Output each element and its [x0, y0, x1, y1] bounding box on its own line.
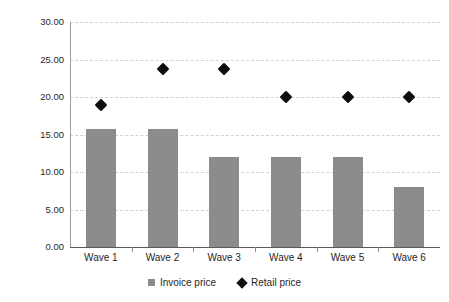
x-tick-label: Wave 4 [269, 252, 303, 263]
bar-invoice-price [86, 129, 116, 248]
y-axis-tick-labels: 30.0025.0020.0015.0010.005.000.00 [0, 22, 64, 247]
x-tick-label: Wave 1 [84, 252, 118, 263]
gridline [70, 135, 440, 136]
gridline [70, 210, 440, 211]
y-tick-label: 0.00 [0, 241, 64, 252]
diamond-marker-icon [236, 277, 247, 288]
price-comparison-chart: Price (€) 30.0025.0020.0015.0010.005.000… [0, 0, 449, 302]
gridline [70, 22, 440, 23]
legend-label-retail-price: Retail price [251, 277, 301, 288]
gridline [70, 60, 440, 61]
y-tick-label: 10.00 [0, 166, 64, 177]
gridline [70, 172, 440, 173]
chart-legend: Invoice price Retail price [0, 277, 449, 288]
y-tick-label: 30.00 [0, 16, 64, 27]
marker-retail-price [156, 62, 169, 75]
plot-area [70, 22, 440, 247]
marker-retail-price [279, 91, 292, 104]
x-axis-tick [193, 247, 194, 252]
x-axis-tick [317, 247, 318, 252]
marker-retail-price [94, 98, 107, 111]
y-tick-label: 15.00 [0, 129, 64, 140]
legend-label-invoice-price: Invoice price [160, 277, 216, 288]
marker-retail-price [341, 91, 354, 104]
y-tick-label: 5.00 [0, 204, 64, 215]
x-axis-tick [132, 247, 133, 252]
square-marker-icon [148, 279, 155, 286]
x-axis-tick [255, 247, 256, 252]
bar-invoice-price [148, 129, 178, 248]
marker-retail-price [403, 91, 416, 104]
gridline [70, 97, 440, 98]
bar-invoice-price [333, 157, 363, 247]
x-axis-tick [378, 247, 379, 252]
legend-item-retail-price: Retail price [238, 277, 301, 288]
x-tick-label: Wave 2 [146, 252, 180, 263]
x-tick-label: Wave 6 [392, 252, 426, 263]
legend-item-invoice-price: Invoice price [148, 277, 216, 288]
y-axis-line [70, 22, 71, 247]
y-tick-label: 25.00 [0, 54, 64, 65]
bar-invoice-price [394, 187, 424, 247]
bar-invoice-price [271, 157, 301, 247]
marker-retail-price [218, 62, 231, 75]
x-axis-tick-labels: Wave 1Wave 2Wave 3Wave 4Wave 5Wave 6 [70, 252, 440, 270]
x-tick-label: Wave 5 [331, 252, 365, 263]
y-tick-label: 20.00 [0, 91, 64, 102]
x-tick-label: Wave 3 [207, 252, 241, 263]
bar-invoice-price [209, 157, 239, 247]
